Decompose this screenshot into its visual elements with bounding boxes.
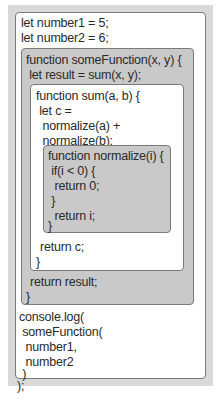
- code-line: }: [36, 255, 40, 270]
- code-line: return i;: [48, 209, 95, 224]
- code-line: return 0;: [48, 179, 99, 194]
- code-line: function someFunction(x, y) {: [26, 53, 181, 68]
- code-line: let c =: [36, 104, 72, 119]
- code-line: }: [26, 290, 30, 305]
- code-line: console.log(: [19, 310, 84, 325]
- code-line: let number2 = 6;: [21, 31, 108, 46]
- code-line: number1,: [19, 340, 77, 355]
- code-line: if(i < 0) {: [48, 164, 95, 179]
- code-line: return c;: [40, 240, 84, 255]
- code-line: return result;: [30, 275, 97, 290]
- code-line: function sum(a, b) {: [36, 89, 140, 104]
- code-line: function normalize(i) {: [48, 149, 164, 164]
- code-line: }: [48, 194, 55, 209]
- code-line: someFunction(: [19, 325, 102, 340]
- code-line: );: [17, 379, 24, 394]
- code-line: let number1 = 5;: [21, 16, 108, 31]
- code-line: let result = sum(x, y);: [26, 68, 141, 83]
- code-line: number2: [19, 355, 73, 370]
- code-line: normalize(a) +: [36, 119, 120, 134]
- code-line: }: [48, 219, 52, 234]
